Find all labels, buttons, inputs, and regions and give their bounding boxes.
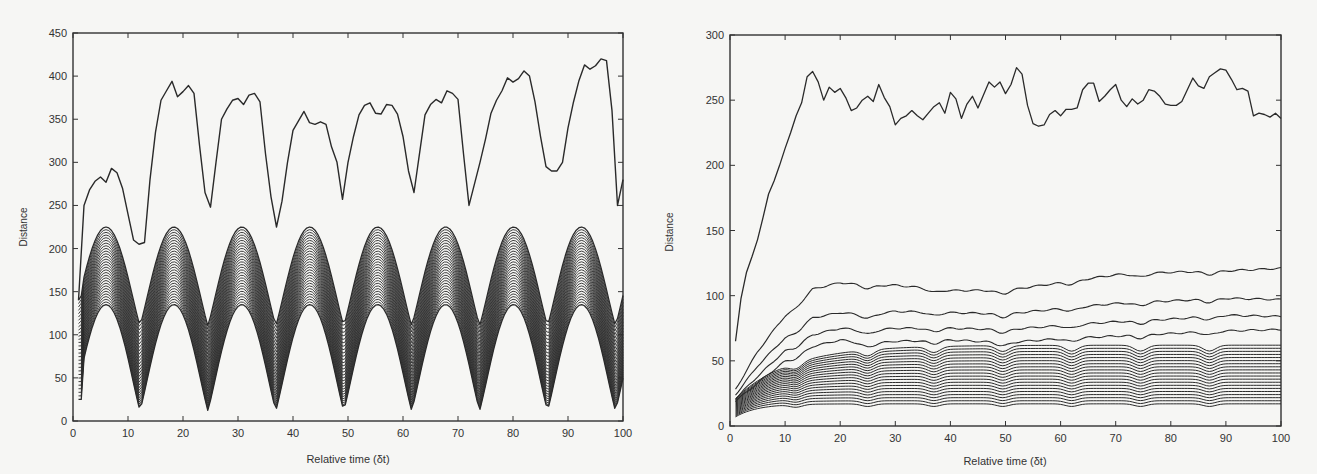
- x-tick-label: 90: [1220, 432, 1232, 444]
- x-tick-label: 0: [70, 427, 76, 439]
- x-tick-label: 100: [1272, 432, 1290, 444]
- y-tick-label: 200: [49, 243, 67, 255]
- y-tick-label: 0: [718, 420, 724, 432]
- left-chart-svg: 0102030405060708090100050100150200250300…: [0, 0, 650, 474]
- left-curve-bundle: [79, 227, 624, 410]
- x-tick-label: 10: [779, 432, 791, 444]
- y-tick-label: 250: [706, 94, 724, 106]
- x-tick-label: 80: [507, 427, 519, 439]
- x-tick-label: 60: [397, 427, 409, 439]
- y-tick-label: 400: [49, 70, 67, 82]
- y-tick-label: 200: [706, 159, 724, 171]
- x-tick-label: 20: [834, 432, 846, 444]
- bundle-curve: [736, 401, 1281, 416]
- left-y-axis-label: Distance: [18, 207, 29, 246]
- x-tick-label: 0: [727, 432, 733, 444]
- left-distance-chart: 0102030405060708090100050100150200250300…: [0, 0, 650, 474]
- y-tick-label: 350: [49, 113, 67, 125]
- x-tick-label: 80: [1165, 432, 1177, 444]
- right-curve-bundle: [736, 268, 1281, 417]
- x-tick-label: 20: [177, 427, 189, 439]
- right-chart-svg: 0102030405060708090100050100150200250300…: [655, 0, 1317, 474]
- y-tick-label: 150: [49, 286, 67, 298]
- x-tick-label: 50: [342, 427, 354, 439]
- y-tick-label: 150: [706, 225, 724, 237]
- y-tick-label: 100: [49, 329, 67, 341]
- y-tick-label: 250: [49, 199, 67, 211]
- x-tick-label: 50: [999, 432, 1011, 444]
- y-tick-label: 0: [61, 415, 67, 427]
- y-tick-label: 100: [706, 290, 724, 302]
- y-tick-label: 450: [49, 27, 67, 39]
- x-tick-label: 60: [1054, 432, 1066, 444]
- x-tick-label: 10: [122, 427, 134, 439]
- right-distance-chart: 0102030405060708090100050100150200250300…: [655, 0, 1317, 474]
- right-y-axis-label: Distance: [664, 212, 675, 251]
- bundle-curve: [736, 398, 1281, 415]
- bundle-curve: [736, 404, 1281, 417]
- y-tick-label: 50: [712, 355, 724, 367]
- right-x-axis-label: Relative time (δt): [963, 455, 1046, 467]
- x-tick-label: 40: [287, 427, 299, 439]
- x-tick-label: 90: [562, 427, 574, 439]
- y-tick-label: 300: [706, 29, 724, 41]
- x-tick-label: 40: [944, 432, 956, 444]
- x-tick-label: 30: [889, 432, 901, 444]
- left-x-axis-label: Relative time (δt): [306, 453, 389, 465]
- x-tick-label: 70: [452, 427, 464, 439]
- x-tick-label: 100: [614, 427, 632, 439]
- y-tick-label: 300: [49, 156, 67, 168]
- x-tick-label: 70: [1110, 432, 1122, 444]
- y-tick-label: 50: [55, 372, 67, 384]
- x-tick-label: 30: [232, 427, 244, 439]
